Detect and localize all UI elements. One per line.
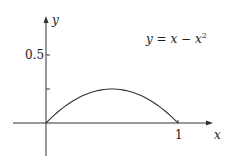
x-axis-arrow-icon [206, 121, 213, 126]
y-axis-arrow-icon [44, 16, 49, 23]
equation-annotation: y = x − x2 [145, 31, 207, 46]
y-tick-label-0.5: 0.5 [25, 48, 44, 62]
curve-x-minus-x-squared [46, 89, 178, 123]
x-axis-label: x [214, 128, 221, 142]
chart: y 0.5 1 x y = x − x2 [0, 0, 230, 161]
x-tick-label-1: 1 [175, 128, 183, 142]
y-axis-label: y [51, 13, 59, 27]
